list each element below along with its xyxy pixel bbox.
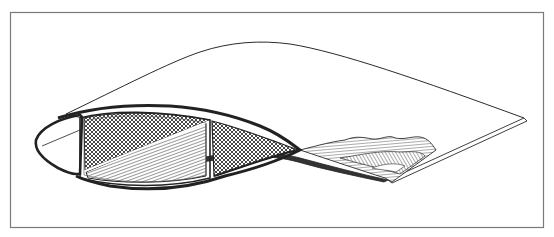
leading-edge-nose (36, 115, 82, 174)
diagram-canvas (0, 0, 554, 237)
airfoil-diagram (0, 0, 554, 237)
